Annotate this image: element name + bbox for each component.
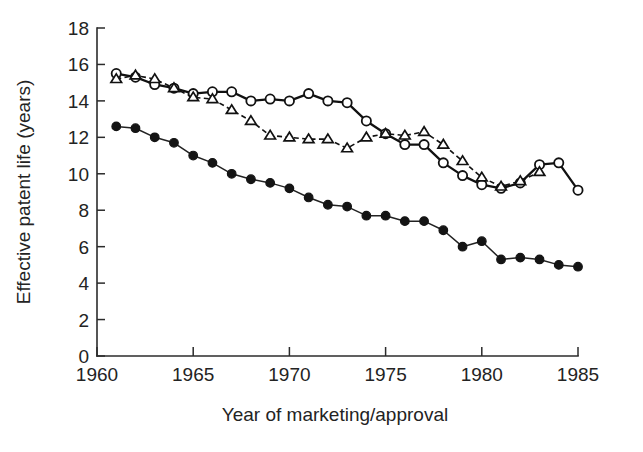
data-point-filled-circle	[189, 151, 198, 160]
data-point-open-triangle	[438, 139, 449, 148]
data-point-filled-circle	[478, 237, 487, 246]
data-point-filled-circle	[150, 133, 159, 142]
y-tick-label: 4	[78, 273, 89, 294]
data-point-open-circle	[227, 87, 236, 96]
data-point-filled-circle	[170, 139, 179, 148]
x-tick-label: 1985	[557, 364, 599, 385]
data-point-filled-circle	[131, 124, 140, 133]
data-point-open-circle	[246, 96, 255, 105]
chart-series-markers	[111, 69, 583, 271]
x-tick-label: 1970	[268, 364, 310, 385]
data-point-open-triangle	[361, 132, 372, 141]
y-tick-label: 2	[78, 310, 89, 331]
data-point-filled-circle	[381, 211, 390, 220]
effective-patent-life-line-chart: 024681012141618 196019651970197519801985…	[0, 0, 643, 452]
data-point-open-circle	[458, 171, 467, 180]
data-point-filled-circle	[554, 261, 563, 270]
data-point-filled-circle	[497, 255, 506, 264]
data-point-filled-circle	[324, 200, 333, 209]
data-point-open-circle	[400, 140, 409, 149]
data-point-open-triangle	[246, 116, 257, 125]
y-tick-label: 12	[68, 127, 89, 148]
data-point-open-triangle	[419, 127, 430, 136]
data-point-filled-circle	[458, 242, 467, 251]
data-point-open-triangle	[265, 130, 276, 139]
data-point-filled-circle	[574, 262, 583, 271]
data-point-filled-circle	[304, 193, 313, 202]
x-axis-title: Year of marketing/approval	[222, 404, 448, 425]
data-point-filled-circle	[266, 179, 275, 188]
data-point-filled-circle	[439, 226, 448, 235]
y-tick-label: 16	[68, 54, 89, 75]
data-point-open-circle	[343, 98, 352, 107]
series-line-open-circle-series	[116, 74, 578, 191]
data-point-open-circle	[285, 96, 294, 105]
y-tick-label: 10	[68, 164, 89, 185]
data-point-open-circle	[323, 96, 332, 105]
data-point-open-circle	[573, 186, 582, 195]
data-point-filled-circle	[285, 184, 294, 193]
data-point-filled-circle	[516, 253, 525, 262]
data-point-filled-circle	[227, 169, 236, 178]
data-point-filled-circle	[420, 217, 429, 226]
data-point-open-circle	[266, 94, 275, 103]
data-point-filled-circle	[247, 175, 256, 184]
x-tick-label: 1975	[364, 364, 406, 385]
x-tick-label: 1965	[172, 364, 214, 385]
data-point-open-circle	[554, 158, 563, 167]
y-tick-label: 6	[78, 237, 89, 258]
data-point-open-circle	[304, 89, 313, 98]
data-point-open-triangle	[342, 143, 353, 152]
data-point-open-circle	[362, 116, 371, 125]
data-point-open-triangle	[323, 134, 334, 143]
x-tick-label: 1980	[461, 364, 503, 385]
chart-figure: 024681012141618 196019651970197519801985…	[0, 0, 643, 452]
y-tick-label: 14	[68, 91, 90, 112]
data-point-open-triangle	[226, 105, 237, 114]
data-point-filled-circle	[343, 202, 352, 211]
y-tick-label: 18	[68, 18, 89, 39]
y-axis-title: Effective patent life (years)	[13, 80, 34, 305]
chart-axes	[97, 28, 578, 356]
data-point-filled-circle	[208, 159, 217, 168]
data-point-open-circle	[439, 158, 448, 167]
x-tick-label: 1960	[76, 364, 118, 385]
y-axis-ticks: 024681012141618	[68, 18, 105, 367]
data-point-filled-circle	[401, 217, 410, 226]
x-axis-ticks: 196019651970197519801985	[76, 347, 599, 385]
data-point-filled-circle	[362, 211, 371, 220]
data-point-open-circle	[419, 140, 428, 149]
data-point-filled-circle	[112, 122, 121, 131]
data-point-filled-circle	[535, 255, 544, 264]
y-tick-label: 8	[78, 200, 89, 221]
